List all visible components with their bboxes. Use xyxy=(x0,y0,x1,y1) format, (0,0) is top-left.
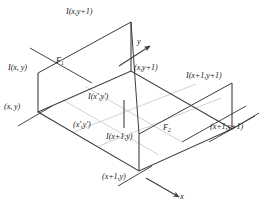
label-f2: F2 xyxy=(163,124,171,132)
label-f2-subscript: 2 xyxy=(168,127,171,133)
label-f1-subscript: 1 xyxy=(61,60,64,66)
label-point-x1-y1: (x+1,y+1) xyxy=(210,123,243,131)
label-intensity-x1-y1: I(x+1,y+1) xyxy=(186,72,222,80)
label-intensity-x1-y: I(x+1,y) xyxy=(106,133,132,141)
label-point-x-y: (x, y) xyxy=(4,103,20,111)
label-point-x1-y: (x+1,y) xyxy=(102,173,126,181)
label-axis-y: y xyxy=(137,37,141,46)
label-intensity-xp-yp: I(x',y') xyxy=(88,93,108,101)
label-point-xp-yp: (x',y') xyxy=(73,121,91,129)
base-plane-outline xyxy=(38,71,232,171)
label-intensity-x-y1: I(x,y+1) xyxy=(66,8,92,16)
figure-canvas xyxy=(0,0,270,215)
label-point-x-y1: (x,y+1) xyxy=(134,64,158,72)
label-axis-x: x xyxy=(180,192,184,201)
vertical-intensity-bars xyxy=(38,22,232,171)
axis-x xyxy=(146,178,179,197)
label-f1: F1 xyxy=(56,57,64,65)
label-intensity-x-y: I(x, y) xyxy=(8,64,27,72)
bilinear-interpolation-diagram: I(x,y+1) I(x, y) I(x+1,y+1) I(x+1,y) I(x… xyxy=(0,0,270,215)
